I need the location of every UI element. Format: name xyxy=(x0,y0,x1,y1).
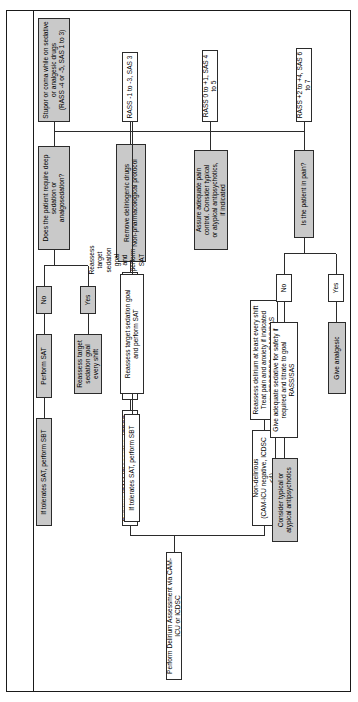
edge-rass-split xyxy=(54,131,304,132)
node-no-deep-sedation: No xyxy=(36,286,52,314)
node-deep-sedation-question: Does the patient require deep sedation o… xyxy=(38,146,70,250)
edge-painq-split xyxy=(284,253,336,254)
node-yes-deep-sedation: Yes xyxy=(80,286,96,314)
flowchart-canvas-wrapper: Perform Delirium Assessment via CAM-ICU … xyxy=(36,12,349,690)
node-reassess-target-and-sat: Reassess target sedation goal and perfor… xyxy=(116,258,118,262)
edge-painq-to-yes xyxy=(336,254,337,274)
node-remove-deliriogenic-drugs: Remove deliriogenic drugs Non-pharmacolo… xyxy=(116,144,146,262)
node-assure-pain-control: Assure adequate pain control. Consider t… xyxy=(194,150,228,250)
edge-nondelirious-to-reassess xyxy=(264,420,265,430)
node-reassess-target-every-shift: Reassess target sedation goal every shif… xyxy=(74,334,102,394)
edge-rassm1m3-to-node xyxy=(132,122,133,274)
node-rass-minus1-minus3: RASS -1 to -3, SAS 3 xyxy=(122,52,138,122)
edge-remove-trunk xyxy=(130,132,131,144)
node-give-adequate-sedative: Give adequate sedative for safety if req… xyxy=(270,322,298,438)
node-yes-pain: Yes xyxy=(328,274,344,302)
edge-rassp2p4-to-painq xyxy=(304,122,305,150)
node-perform-sat: Perform SAT xyxy=(36,334,52,398)
node-no-pain: No xyxy=(276,274,292,302)
edge-rass0p1-to-assure xyxy=(210,122,211,150)
edge-assessment-split xyxy=(130,535,264,536)
edge-painq-to-no xyxy=(284,254,285,274)
edge-assessment-trunk xyxy=(174,536,175,552)
edge-yes-to-give-analgesic xyxy=(336,302,337,322)
edge-delirious-to-differential xyxy=(130,400,131,410)
edge-sat-to-sbt xyxy=(44,398,45,418)
edge-question-split xyxy=(44,265,88,266)
edge-question-to-no xyxy=(44,266,45,286)
edge-question-trunk xyxy=(54,250,55,266)
node-delirium-assessment: Perform Delirium Assessment via CAM-ICU … xyxy=(166,552,182,680)
node-rass-0-plus1: RASS 0 to +1, SAS 4 to 5 xyxy=(202,50,218,122)
edge-sedative-to-antipsychotics xyxy=(284,438,285,458)
node-if-tolerates-sat-sbt-bottom: If tolerates SAT, perform SBT xyxy=(124,414,140,522)
edge-to-nondelirious xyxy=(264,526,265,536)
node-stupor-coma: Stupor or coma while on sedative or anal… xyxy=(38,18,70,122)
edge-no-to-perform-sat xyxy=(44,314,45,334)
edge-stupor-to-question xyxy=(54,122,55,146)
node-reassess-sedation-goal-sat: Reassess target sedation goal and perfor… xyxy=(120,274,144,394)
edge-to-delirious xyxy=(130,526,131,536)
node-rass-plus2-plus4: RASS +2 to +4, SAS 6 to 7 xyxy=(296,48,312,122)
edge-yes-to-reassess-shift xyxy=(88,314,89,334)
edge-no-to-give-sedative xyxy=(284,302,285,322)
node-give-analgesic: Give analgesic xyxy=(328,322,346,394)
node-if-tolerates-sat-sbt-top: If tolerates SAT, perform SBT xyxy=(36,418,52,526)
edge-to-rass-m1-m3 xyxy=(130,122,131,132)
node-consider-antipsychotics: Consider typical or atypical antipsychot… xyxy=(272,458,298,542)
flowchart-canvas: Perform Delirium Assessment via CAM-ICU … xyxy=(36,12,349,690)
edge-painq-trunk xyxy=(304,238,305,254)
node-pain-question: Is the patient in pain? xyxy=(294,150,314,238)
edge-reassess-sat-to-sbt2 xyxy=(132,394,133,414)
title-rail xyxy=(6,10,34,692)
